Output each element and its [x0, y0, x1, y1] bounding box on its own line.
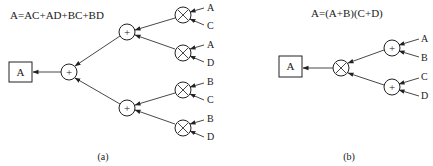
caption-b: (b) [343, 151, 355, 163]
equation-a: A=AC+AD+BC+BD [10, 9, 104, 21]
equation-b: A=(A+B)(C+D) [311, 7, 383, 20]
input-label: A [207, 39, 215, 50]
svg-text:+: + [124, 102, 130, 114]
input-label: C [207, 94, 214, 105]
svg-text:+: + [66, 66, 72, 78]
diagram-a: A=AC+AD+BC+BD A + + + [9, 2, 215, 163]
caption-a: (a) [97, 151, 108, 163]
input-label: C [421, 71, 428, 82]
diagram-canvas: A=AC+AD+BC+BD A + + + [0, 0, 433, 166]
svg-text:+: + [124, 26, 130, 38]
svg-text:+: + [389, 42, 395, 54]
output-label-a: A [17, 66, 25, 78]
multiply-node-4-a [175, 120, 191, 136]
input-label: A [421, 33, 429, 44]
input-label: D [207, 57, 214, 68]
output-label-b: A [287, 60, 295, 72]
input-label: B [207, 76, 214, 87]
multiply-node-2-a [175, 45, 191, 61]
multiply-node-1-a [175, 7, 191, 23]
input-label: B [207, 113, 214, 124]
input-label: A [207, 2, 215, 13]
input-label: B [421, 52, 428, 63]
svg-text:+: + [389, 81, 395, 93]
input-label: D [207, 131, 214, 142]
root-multiply-node-b [333, 60, 349, 76]
diagram-b: A=(A+B)(C+D) A + + A B C D (b) [279, 7, 429, 163]
input-label: D [421, 90, 428, 101]
input-label: C [207, 20, 214, 31]
multiply-node-3-a [175, 82, 191, 98]
